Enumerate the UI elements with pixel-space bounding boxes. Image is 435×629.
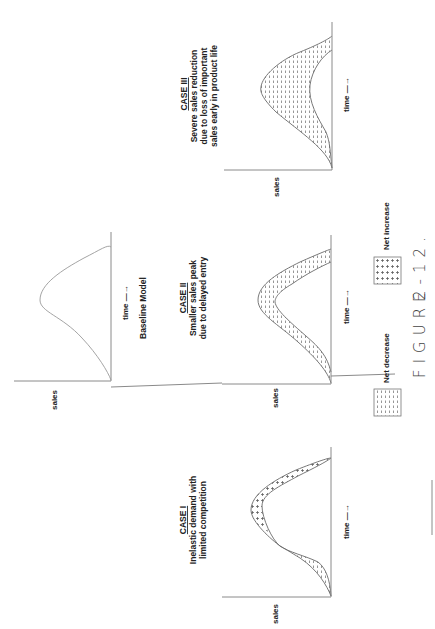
figure-caption: FIGURE 2-12. [411,231,429,378]
case2-heading: CASE II [178,283,188,314]
case3-xlabel: time —→ [342,77,351,112]
panel-baseline: sales time —→ Baseline Model [14,232,148,410]
case1-net-decrease-area [280,546,331,596]
baseline-curve [40,246,111,380]
case1-desc-line1: Inelastic demand with [188,476,198,564]
case2-desc-line1: Smaller sales peak [188,260,198,336]
case1-desc-line2: limited competition [198,481,208,559]
case3-ylabel: sales [272,176,281,197]
panel-case1: sales time —→ CASE I Inelastic demand wi… [178,447,351,624]
case1-heading: CASE I [178,506,188,534]
case2-ylabel: sales [271,387,280,408]
case3-desc-line2: due to loss of important [199,47,209,144]
legend-label-net-increase: Net increase [382,202,391,250]
panel-case3: sales time —→ CASE III Severe sales redu… [179,22,351,197]
case3-desc-line3: sales early in product life [209,45,219,147]
legend: Net decrease Net increase [374,202,401,416]
baseline-title: Baseline Model [138,277,148,339]
legend-swatch-net-decrease [374,389,401,416]
case1-ylabel: sales [271,603,280,624]
baseline-xlabel: time —→ [121,285,130,320]
figure-canvas: sales time —→ Baseline Model sales time … [0,0,435,629]
case2-xlabel: time —→ [342,289,351,324]
case3-desc-line1: Severe sales reduction [189,50,199,143]
case2-net-decrease-area [258,249,331,383]
legend-label-net-decrease: Net decrease [382,333,391,383]
legend-swatch-net-increase [374,257,401,284]
connector-line [111,383,222,387]
case2-desc-line2: due to delayed entry [198,256,208,339]
caption-number: 2-12. [411,231,429,300]
case3-heading: CASE III [179,77,189,110]
panel-case2: sales time —→ CASE II Smaller sales peak… [111,235,395,408]
case1-net-increase-area [251,458,331,532]
case3-net-decrease-area [261,36,332,168]
case1-xlabel: time —→ [342,504,351,539]
baseline-ylabel: sales [50,389,59,410]
